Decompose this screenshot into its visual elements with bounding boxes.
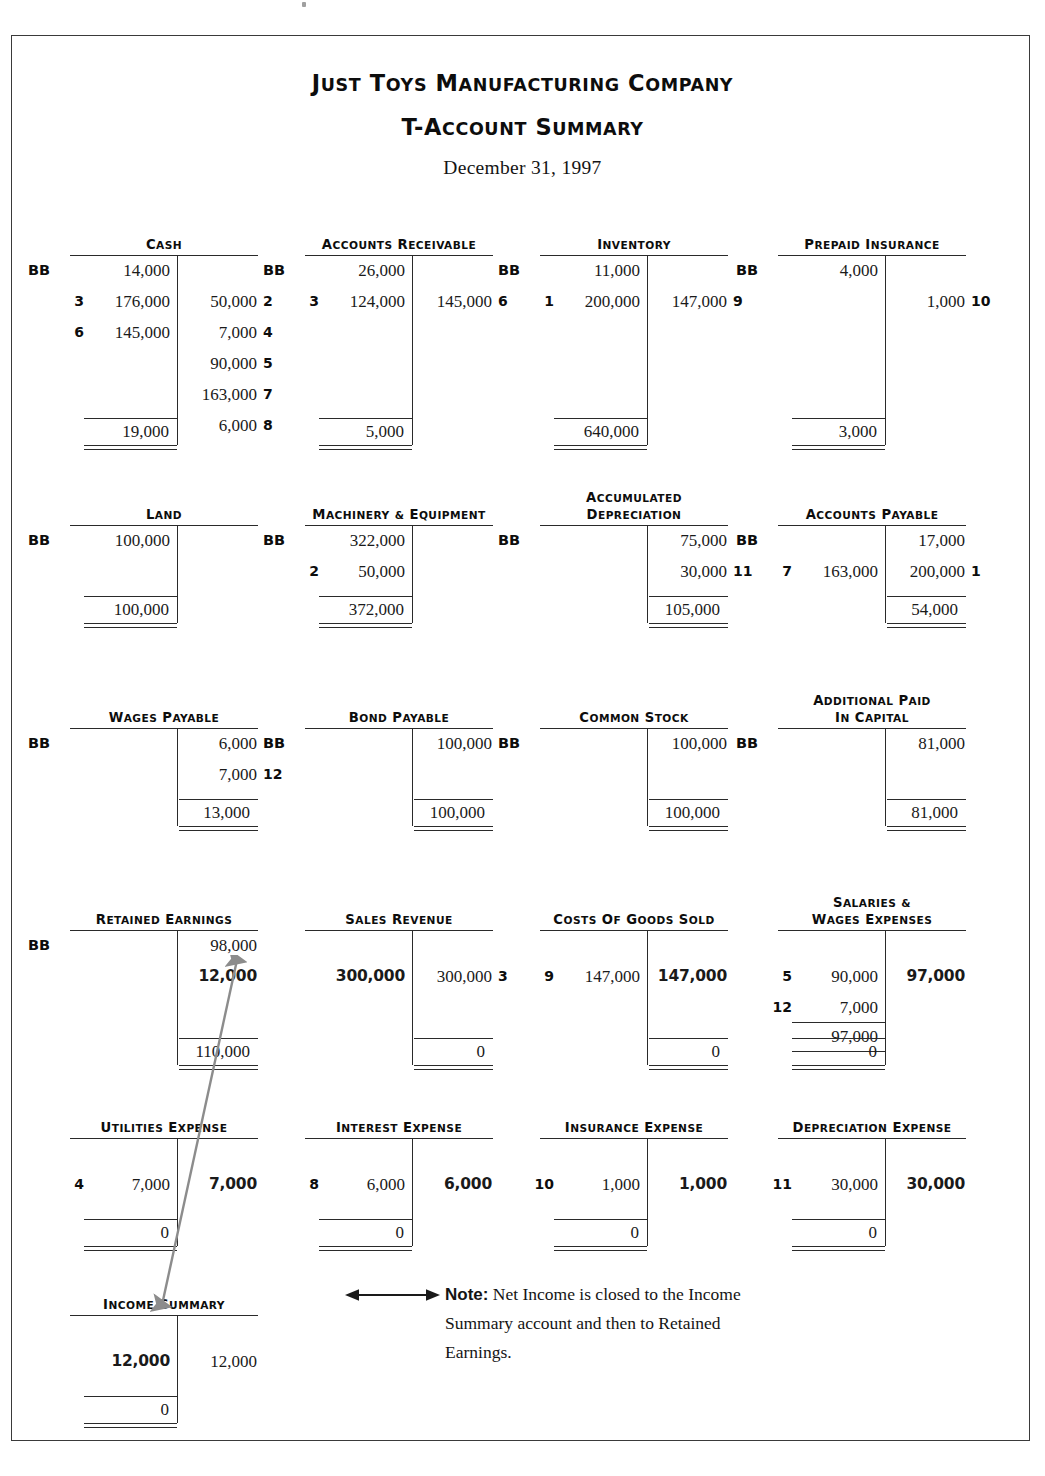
t-rule-horizontal [540,930,728,931]
entry-amount: 100,000 [420,731,492,756]
beginning-balance-label: BB [28,937,50,953]
entry-ref: 7 [766,563,792,579]
ending-balance-amount: 0 [84,1397,169,1422]
beginning-balance-label: BB [28,735,50,751]
entry-amount: 163,000 [185,382,257,407]
t-rule-vertical [885,525,886,623]
company-name: JUST TOYS MANUFACTURING COMPANY [0,68,1045,100]
ending-balance-amount: 372,000 [319,597,404,622]
note-label: Note: [445,1285,488,1304]
t-rule-vertical [412,930,413,1065]
t-account-title-wages-payable: WAGES PAYABLE [70,710,258,729]
ending-balance-amount: 100,000 [414,800,485,825]
balance-rule-double [84,445,177,450]
t-account-prepaid-insurance: PREPAID INSURANCEBB4,0001,000103,000 [778,255,966,445]
entry-ref: 9 [528,968,554,984]
entry-amount: 12,000 [185,1349,257,1374]
entry-ref: 3 [498,968,524,984]
t-account-sales-revenue: SALES REVENUE300,000300,00030 [305,930,493,1065]
entry-amount: 97,000 [893,964,965,989]
t-rule-horizontal [778,1138,966,1139]
entry-amount: 147,000 [655,964,727,989]
t-account-depreciation-expense: DEPRECIATION EXPENSE1130,00030,0000 [778,1138,966,1246]
ending-balance-amount: 5,000 [319,419,404,444]
beginning-balance-label: BB [498,532,520,548]
t-rule-vertical [412,728,413,826]
t-rule-vertical [177,930,178,1065]
entry-amount: 6,000 [319,1172,405,1197]
ending-balance-amount: 54,000 [887,597,958,622]
balance-rule-double [179,1065,258,1070]
t-rule-horizontal [540,525,728,526]
t-rule-vertical [885,930,886,1065]
t-account-wages-payable: WAGES PAYABLEBB6,0007,0001213,000 [70,728,258,826]
balance-rule-double [319,445,412,450]
t-rule-horizontal [70,1138,258,1139]
entry-amount: 100,000 [655,731,727,756]
balance-rule-double [414,1065,493,1070]
entry-amount: 147,000 [554,964,640,989]
balance-rule-double [554,445,647,450]
t-rule-horizontal [778,728,966,729]
beginning-balance-label: BB [736,735,758,751]
entry-amount: 12,000 [84,1349,170,1374]
entry-amount: 176,000 [84,289,170,314]
beginning-balance-label: BB [736,262,758,278]
ending-balance-amount: 100,000 [84,597,169,622]
t-rule-vertical [412,525,413,623]
t-account-machinery-equipment: MACHINERY & EQUIPMENTBB322,000250,000372… [305,525,493,623]
entry-amount: 90,000 [792,964,878,989]
entry-amount: 6,000 [185,731,257,756]
t-rule-horizontal [305,728,493,729]
t-account-title-accumulated-depreciation: ACCUMULATEDDEPRECIATION [540,490,728,525]
ending-balance-amount: 19,000 [84,419,169,444]
entry-amount: 4,000 [792,258,878,283]
t-rule-horizontal [305,525,493,526]
entry-amount: 26,000 [319,258,405,283]
entry-ref: 1 [971,563,997,579]
t-rule-horizontal [778,525,966,526]
entry-amount: 90,000 [185,351,257,376]
entry-amount: 7,000 [185,320,257,345]
entry-amount: 322,000 [319,528,405,553]
entry-amount: 98,000 [185,933,257,958]
entry-ref: 6 [58,324,84,340]
ending-balance-amount: 3,000 [792,419,877,444]
t-account-common-stock: COMMON STOCKBB100,000100,000 [540,728,728,826]
ending-balance-amount: 13,000 [179,800,250,825]
t-account-income-summary: INCOME SUMMARY12,00012,0000 [70,1315,258,1423]
balance-rule-double [649,623,728,628]
t-rule-vertical [177,728,178,826]
balance-rule-double [414,826,493,831]
beginning-balance-label: BB [28,262,50,278]
ending-balance-amount: 81,000 [887,800,958,825]
entry-amount: 163,000 [792,559,878,584]
entry-amount: 200,000 [554,289,640,314]
ending-balance-amount: 0 [84,1220,169,1245]
balance-rule-double [319,1246,412,1251]
entry-amount: 17,000 [893,528,965,553]
scan-artifact [302,2,306,7]
entry-ref: 10 [971,293,997,309]
entry-amount: 14,000 [84,258,170,283]
entry-ref: 7 [263,386,289,402]
balance-rule-double [792,1065,885,1070]
t-account-title-common-stock: COMMON STOCK [540,710,728,729]
t-rule-horizontal [70,930,258,931]
entry-amount: 7,000 [185,762,257,787]
t-account-title-land: LAND [70,507,258,526]
beginning-balance-label: BB [263,532,285,548]
entry-amount: 12,000 [185,964,257,989]
t-rule-vertical [412,255,413,445]
t-account-title-accounts-payable: ACCOUNTS PAYABLE [778,507,966,526]
note-text: Net Income is closed to the Income Summa… [445,1284,741,1362]
t-account-accounts-receivable: ACCOUNTS RECEIVABLEBB26,0003124,000145,0… [305,255,493,445]
t-rule-vertical [647,728,648,826]
t-rule-vertical [177,1138,178,1246]
t-account-title-interest-expense: INTEREST EXPENSE [305,1120,493,1139]
t-account-title-machinery-equipment: MACHINERY & EQUIPMENT [305,507,493,526]
entry-amount: 1,000 [554,1172,640,1197]
t-rule-horizontal [778,255,966,256]
t-account-title-cash: CASH [70,237,258,256]
t-account-interest-expense: INTEREST EXPENSE86,0006,0000 [305,1138,493,1246]
